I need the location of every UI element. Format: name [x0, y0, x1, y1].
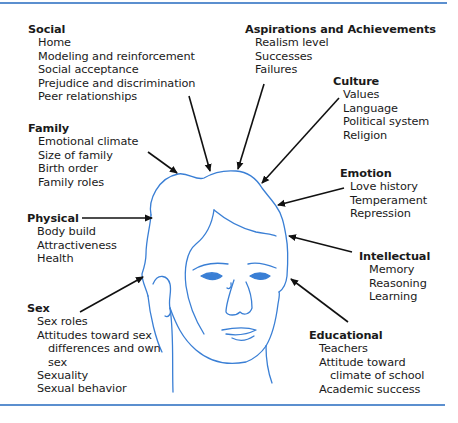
group-item: Sexuality [27, 369, 161, 382]
group-item: Modeling and reinforcement [28, 50, 195, 63]
group-item: Memory [359, 263, 430, 276]
group-item: Home [28, 36, 195, 49]
group-title: Aspirations and Achievements [245, 23, 436, 36]
group-item: Attitudes toward sex [27, 329, 161, 342]
group-item: Values [333, 88, 429, 101]
group-educational: Educational Teachers Attitude toward cli… [309, 329, 424, 396]
group-culture: Culture Values Language Political system… [333, 75, 429, 142]
group-item: Size of family [28, 149, 138, 162]
group-item: Realism level [245, 36, 436, 49]
group-item: differences and own [27, 342, 161, 355]
face-drawing [142, 171, 288, 392]
group-title: Sex [27, 302, 161, 315]
group-title: Physical [27, 212, 117, 225]
arrow-aspirations [238, 84, 264, 169]
group-item: Temperament [340, 194, 427, 207]
group-family: Family Emotional climate Size of family … [28, 122, 138, 189]
arrow-social [189, 96, 210, 171]
group-emotion: Emotion Love history Temperament Repress… [340, 167, 427, 221]
group-item: Political system [333, 115, 429, 128]
group-item: Peer relationships [28, 90, 195, 103]
arrow-intellectual [289, 236, 352, 252]
group-title: Intellectual [359, 250, 430, 263]
arrows [80, 84, 352, 322]
group-item: Health [27, 252, 117, 265]
group-title: Culture [333, 75, 429, 88]
group-item: Reasoning [359, 277, 430, 290]
group-item: Attractiveness [27, 239, 117, 252]
group-title: Emotion [340, 167, 427, 180]
group-social: Social Home Modeling and reinforcement S… [28, 23, 195, 103]
arrow-family [148, 152, 177, 173]
group-item: Sex roles [27, 315, 161, 328]
group-item: Religion [333, 129, 429, 142]
group-item: Teachers [309, 342, 424, 355]
group-item: Attitude toward [309, 356, 424, 369]
arrow-culture [262, 98, 339, 183]
group-physical: Physical Body build Attractiveness Healt… [27, 212, 117, 266]
group-item: Emotional climate [28, 135, 138, 148]
group-aspirations: Aspirations and Achievements Realism lev… [245, 23, 436, 77]
group-item: Love history [340, 180, 427, 193]
group-item: Sexual behavior [27, 382, 161, 395]
group-item: climate of school [309, 369, 424, 382]
group-item: Prejudice and discrimination [28, 77, 195, 90]
group-item: Language [333, 102, 429, 115]
group-item: Birth order [28, 162, 138, 175]
group-sex: Sex Sex roles Attitudes toward sex diffe… [27, 302, 161, 396]
group-title: Social [28, 23, 195, 36]
arrow-emotion [278, 188, 344, 205]
group-title: Family [28, 122, 138, 135]
group-item: sex [27, 356, 161, 369]
group-intellectual: Intellectual Memory Reasoning Learning [359, 250, 430, 304]
group-item: Social acceptance [28, 63, 195, 76]
group-item: Academic success [309, 383, 424, 396]
group-title: Educational [309, 329, 424, 342]
group-item: Body build [27, 225, 117, 238]
arrow-educational [291, 279, 348, 322]
group-item: Successes [245, 50, 436, 63]
group-item: Repression [340, 207, 427, 220]
group-item: Family roles [28, 176, 138, 189]
group-item: Learning [359, 290, 430, 303]
